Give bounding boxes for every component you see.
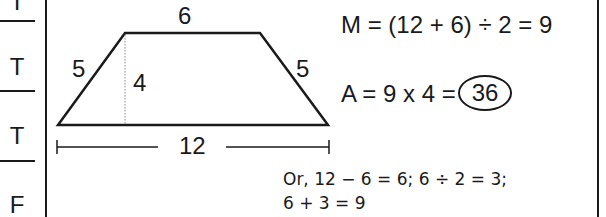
area-formula: A = 9 x 4 =36 — [341, 76, 512, 112]
left-side-label: 5 — [72, 56, 85, 82]
answer-2: T — [0, 55, 34, 79]
answer-divider — [0, 20, 35, 22]
height-label: 4 — [133, 70, 146, 96]
alternate-method-line-2: 6 + 3 = 9 — [283, 192, 366, 214]
trapezoid-shape — [58, 33, 328, 125]
alternate-method-line-1: Or, 12 − 6 = 6; 6 ÷ 2 = 3; — [283, 168, 507, 190]
answer-3: T — [0, 124, 34, 148]
right-border — [597, 0, 599, 217]
bottom-base-label: 12 — [179, 133, 206, 159]
answer-4: F — [0, 193, 34, 217]
right-side-label: 5 — [296, 56, 309, 82]
answer-1: T — [0, 0, 34, 14]
area-formula-prefix: A = 9 x 4 = — [341, 80, 456, 107]
answer-divider — [0, 90, 35, 92]
circled-answer: 36 — [458, 75, 513, 111]
top-base-label: 6 — [178, 3, 191, 29]
answer-divider — [0, 160, 35, 162]
median-formula: M = (12 + 6) ÷ 2 = 9 — [341, 12, 552, 38]
